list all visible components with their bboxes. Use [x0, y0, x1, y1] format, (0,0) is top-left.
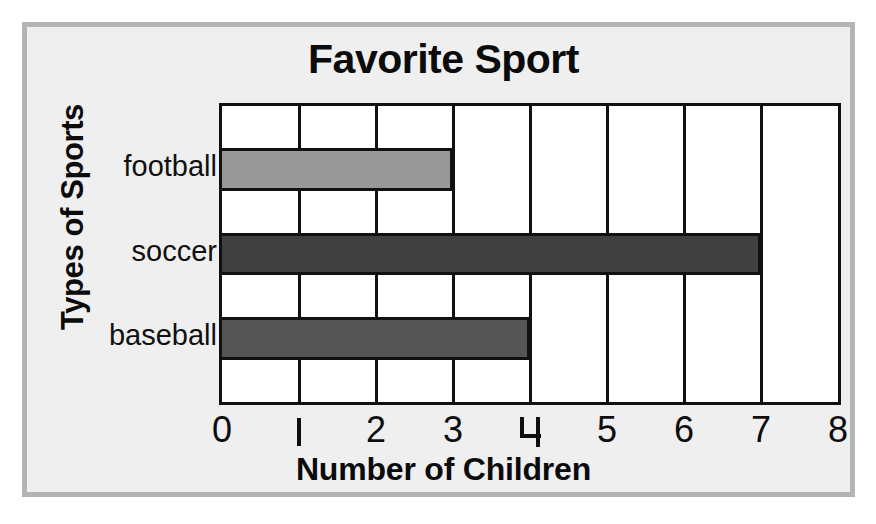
bar-soccer: [222, 233, 761, 275]
x-tick-label-6: 6: [662, 409, 706, 451]
chart-card: Favorite Sport Types of Sports footballs…: [22, 22, 855, 497]
plot-area: [219, 103, 841, 405]
x-tick-label-5: 5: [585, 409, 629, 451]
chart-canvas: Favorite Sport Types of Sports footballs…: [27, 27, 850, 492]
bar-baseball: [222, 317, 530, 359]
x-tick-label-7: 7: [739, 409, 783, 451]
chart-title: Favorite Sport: [27, 35, 860, 83]
x-tick-label-2: 2: [354, 409, 398, 451]
x-tick-label-8: 8: [816, 409, 860, 451]
category-label-football: football: [67, 145, 217, 187]
x-tick-label-0: 0: [200, 409, 244, 451]
category-label-soccer: soccer: [67, 230, 217, 272]
x-tick-label-3: 3: [431, 409, 475, 451]
x-tick-label-1: [277, 409, 321, 451]
bar-football: [222, 148, 453, 190]
category-label-baseball: baseball: [67, 314, 217, 356]
x-axis-title: Number of Children: [27, 451, 860, 488]
x-tick-label-4: [508, 409, 552, 451]
x-axis-tick-labels: 0235678: [219, 409, 841, 453]
plot-inner: [222, 106, 838, 402]
category-axis-labels: footballsoccerbaseball: [67, 103, 217, 399]
